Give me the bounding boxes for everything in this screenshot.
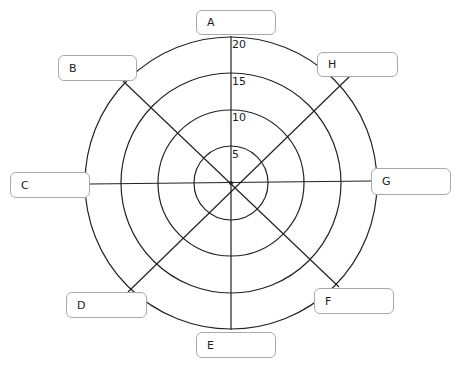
center-dot	[229, 181, 233, 185]
label-box-d[interactable]: D	[66, 292, 147, 318]
label-box-h[interactable]: H	[317, 52, 398, 77]
scale-label-10: 10	[232, 111, 246, 124]
label-box-g[interactable]: G	[371, 168, 451, 195]
scale-label-5: 5	[232, 148, 239, 161]
spoke-h-d	[128, 76, 350, 292]
label-box-e[interactable]: E	[196, 332, 276, 358]
label-box-f[interactable]: F	[314, 288, 394, 314]
label-box-a[interactable]: A	[196, 10, 276, 35]
label-box-b[interactable]: B	[58, 55, 137, 81]
scale-label-15: 15	[232, 75, 246, 88]
scale-label-20: 20	[232, 38, 246, 51]
label-box-c[interactable]: C	[10, 172, 90, 198]
